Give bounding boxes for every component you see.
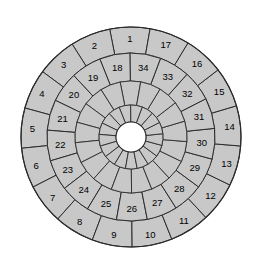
- sector-label-1: 1: [127, 33, 132, 44]
- sector-label-20: 20: [69, 89, 80, 100]
- sector-label-6: 6: [33, 160, 38, 171]
- sector-label-29: 29: [190, 162, 201, 173]
- sector-label-4: 4: [39, 88, 44, 99]
- sector-label-3: 3: [61, 59, 66, 70]
- sector-label-18: 18: [112, 62, 123, 73]
- sector-label-10: 10: [145, 229, 156, 240]
- sector-label-24: 24: [78, 184, 89, 195]
- sector-label-25: 25: [101, 198, 112, 209]
- sector-label-19: 19: [88, 72, 99, 83]
- sector-label-26: 26: [126, 203, 137, 214]
- sector-label-11: 11: [179, 215, 189, 226]
- sector-label-7: 7: [50, 192, 55, 203]
- sector-label-16: 16: [192, 58, 203, 69]
- sector-label-33: 33: [162, 71, 173, 82]
- sector-label-30: 30: [196, 137, 207, 148]
- sector-label-23: 23: [62, 164, 73, 175]
- sector-label-21: 21: [57, 113, 68, 124]
- sector-label-14: 14: [224, 121, 235, 132]
- sector-label-15: 15: [214, 86, 225, 97]
- sector-label-34: 34: [138, 62, 149, 73]
- sector-label-13: 13: [221, 158, 232, 169]
- sector-label-22: 22: [55, 139, 66, 150]
- sector-label-32: 32: [182, 88, 193, 99]
- concentric-sector-wheel: 1234567891011121314151617181920212223242…: [0, 0, 260, 273]
- sector-label-9: 9: [111, 229, 116, 240]
- sector-label-5: 5: [30, 123, 35, 134]
- sector-label-8: 8: [77, 216, 82, 227]
- sector-label-31: 31: [194, 111, 205, 122]
- sector-label-12: 12: [205, 190, 216, 201]
- sector-outer-5: [21, 108, 50, 148]
- sector-label-28: 28: [174, 183, 185, 194]
- wheel-diagram-container: 1234567891011121314151617181920212223242…: [0, 0, 260, 273]
- center-hub: [116, 122, 146, 152]
- sector-label-17: 17: [161, 39, 172, 50]
- sector-label-2: 2: [92, 40, 97, 51]
- sector-label-27: 27: [152, 197, 163, 208]
